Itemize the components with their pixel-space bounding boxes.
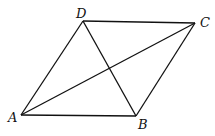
label-d: D — [75, 6, 87, 21]
diagonal-bd — [83, 21, 136, 116]
label-b: B — [137, 117, 148, 132]
diagonal-ac — [21, 23, 195, 115]
rhombus-diagram: A B C D — [0, 0, 215, 136]
side-bc — [136, 23, 195, 116]
side-cd — [83, 21, 195, 23]
label-c: C — [200, 15, 210, 30]
label-a: A — [7, 110, 17, 125]
side-da — [21, 21, 83, 115]
side-ab — [21, 115, 136, 116]
